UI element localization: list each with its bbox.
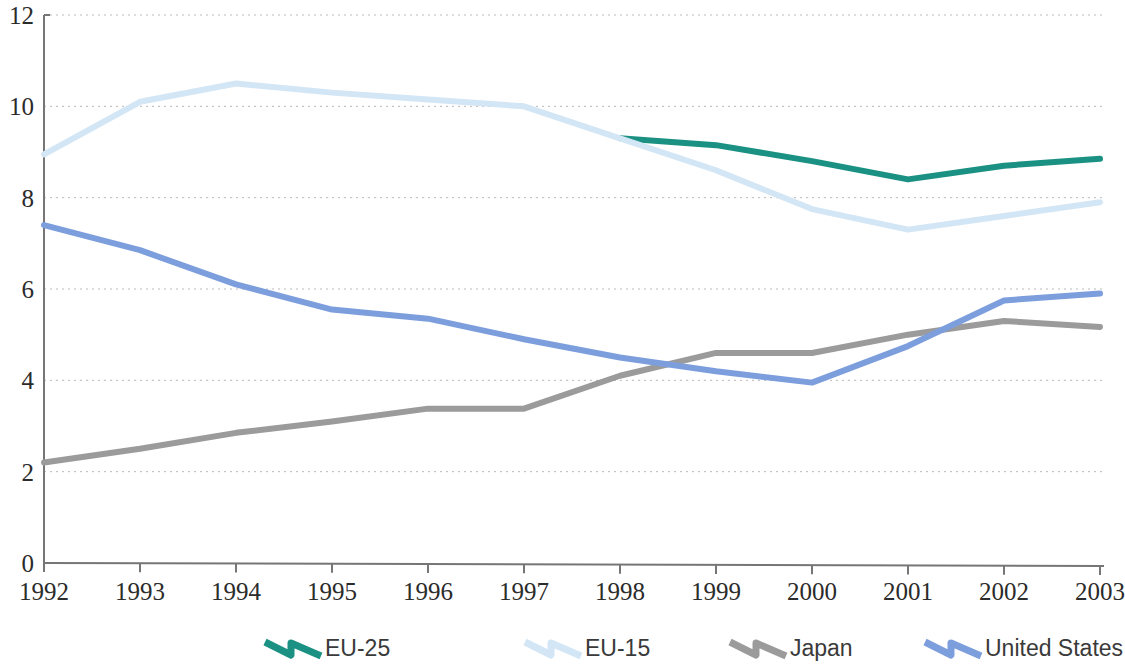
- y-tick-label-8: 8: [22, 185, 35, 212]
- y-tick-label-6: 6: [22, 276, 35, 303]
- legend-marker-eu-15-icon: [525, 642, 581, 656]
- y-tick-label-10: 10: [9, 93, 34, 120]
- y-tick-label-0: 0: [22, 550, 35, 577]
- series-line-united-states: [44, 225, 1100, 383]
- line-chart: 024681012 199219931994199519961997199819…: [0, 0, 1125, 672]
- x-axis-line: [44, 563, 1104, 566]
- y-tick-label-2: 2: [22, 459, 35, 486]
- x-axis-tick-labels: 1992199319941995199619971998199920002001…: [19, 578, 1125, 605]
- legend-marker-eu-25-icon: [265, 642, 321, 656]
- legend-marker-japan-icon: [730, 642, 786, 656]
- chart-legend: EU-25EU-15JapanUnited States: [265, 635, 1123, 661]
- chart-container: 024681012 199219931994199519961997199819…: [0, 0, 1125, 672]
- data-series: [44, 84, 1100, 463]
- x-tick-label-1998: 1998: [595, 578, 645, 605]
- legend-label-japan: Japan: [790, 635, 853, 661]
- legend-marker-united-states-icon: [925, 642, 981, 656]
- x-tick-label-1993: 1993: [115, 578, 165, 605]
- x-tick-label-2002: 2002: [979, 578, 1029, 605]
- x-tick-label-1996: 1996: [403, 578, 453, 605]
- y-tick-label-12: 12: [9, 2, 34, 29]
- gridlines: [44, 15, 1104, 472]
- x-tick-label-1992: 1992: [19, 578, 69, 605]
- x-tick-label-1995: 1995: [307, 578, 357, 605]
- x-tick-label-2003: 2003: [1075, 578, 1125, 605]
- legend-label-eu-15: EU-15: [585, 635, 650, 661]
- series-line-eu-25: [620, 138, 1100, 179]
- x-tick-label-1999: 1999: [691, 578, 741, 605]
- legend-label-eu-25: EU-25: [325, 635, 390, 661]
- series-line-eu-15: [44, 84, 1100, 230]
- x-tick-label-1994: 1994: [211, 578, 262, 605]
- x-tick-label-1997: 1997: [499, 578, 549, 605]
- x-tick-label-2000: 2000: [787, 578, 837, 605]
- series-line-japan: [44, 321, 1100, 463]
- legend-label-united-states: United States: [985, 635, 1123, 661]
- x-axis: [44, 563, 1104, 566]
- x-tick-label-2001: 2001: [883, 578, 933, 605]
- y-tick-label-4: 4: [22, 367, 35, 394]
